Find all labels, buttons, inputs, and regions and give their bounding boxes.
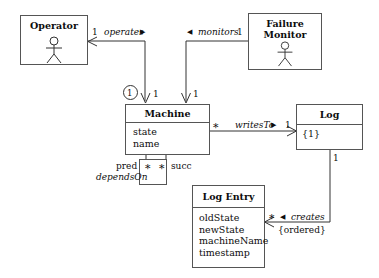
actor-figure-failure-monitor (249, 41, 321, 67)
actor-figure-operator (21, 35, 87, 64)
class-name-operator: Operator (21, 16, 87, 35)
class-name-log-entry: Log Entry (193, 186, 264, 207)
qualifier-circled-one-label: 1 (127, 88, 132, 98)
attribute-logentry-newstate: newState (199, 224, 264, 236)
association-operates-line (88, 37, 150, 103)
multiplicity-failuremonitor-monitors: 1 (237, 27, 243, 37)
association-monitors-line (182, 41, 249, 103)
attribute-logentry-oldstate: oldState (199, 212, 264, 224)
multiplicity-machine-monitors: 1 (193, 89, 199, 99)
multiplicity-machine-writesto: * (213, 124, 219, 132)
uml-class-diagram: Operator Failure Monitor (0, 0, 379, 278)
association-label-monitors: monitors (198, 27, 239, 37)
class-name-log: Log (297, 105, 362, 124)
attribute-machine-state: state (133, 126, 209, 138)
attribute-log-constraint: {1} (302, 128, 362, 140)
direction-marker-writesto: ▶ (271, 120, 276, 130)
multiplicity-succ-dependson: * (159, 165, 165, 173)
class-box-failure-monitor[interactable]: Failure Monitor (248, 13, 322, 70)
multiplicity-log-writesto: 1 (285, 120, 291, 130)
class-name-failure-monitor-line2: Monitor (251, 29, 319, 40)
association-label-dependson: dependsOn (96, 172, 148, 182)
attribute-logentry-machinename: machineName (199, 235, 264, 247)
multiplicity-machine-operates: 1 (153, 89, 159, 99)
class-attributes-log-entry: oldState newState machineName timestamp (193, 208, 264, 261)
multiplicity-logentry-creates: * (269, 215, 275, 223)
association-label-creates: creates (291, 212, 325, 222)
constraint-ordered-creates: {ordered} (278, 225, 326, 235)
class-attributes-machine: state name (126, 123, 209, 152)
association-label-operates: operates (104, 27, 144, 37)
class-name-failure-monitor-line1: Failure (251, 18, 319, 29)
direction-marker-operates: ▶ (140, 27, 145, 37)
class-attributes-log: {1} (297, 125, 362, 143)
multiplicity-log-creates: 1 (333, 153, 339, 163)
direction-marker-creates: ◀ (280, 212, 285, 222)
class-name-machine: Machine (126, 105, 209, 122)
attribute-machine-name: name (133, 138, 209, 150)
class-box-operator[interactable]: Operator (20, 15, 88, 65)
role-label-pred: pred (116, 161, 137, 171)
class-box-machine[interactable]: Machine state name (125, 104, 210, 155)
multiplicity-operator-operates: 1 (92, 27, 98, 37)
direction-marker-monitors: ◀ (187, 27, 192, 37)
role-label-succ: succ (171, 161, 192, 171)
class-name-failure-monitor: Failure Monitor (249, 14, 321, 41)
class-box-log-entry[interactable]: Log Entry oldState newState machineName … (192, 185, 265, 268)
class-box-log[interactable]: Log {1} (296, 104, 363, 150)
association-label-writesto: writesTo (235, 120, 274, 130)
attribute-logentry-timestamp: timestamp (199, 247, 264, 259)
